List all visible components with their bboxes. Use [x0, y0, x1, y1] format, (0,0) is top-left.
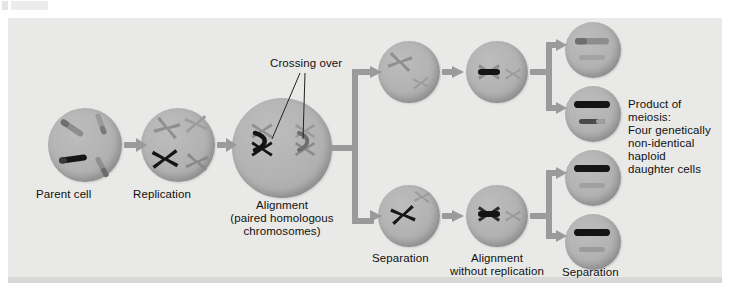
chromosomes-replication: [151, 115, 209, 171]
label-product-line4: non-identical: [628, 137, 695, 151]
chromosomes-alignment-wo-bottom: [478, 206, 521, 221]
label-parent-cell: Parent cell: [36, 188, 91, 202]
chromosomes-alignment-wo-top: [478, 64, 521, 79]
crossover-strand-left: [255, 133, 265, 150]
chromosomes-product-3: [574, 165, 610, 188]
label-alignment-wo-line1: Alignment: [452, 252, 542, 266]
label-product-line1: Product of: [628, 98, 681, 112]
label-replication: Replication: [133, 188, 191, 202]
label-product-line3: Four genetically: [628, 124, 711, 138]
label-product-line6: daughter cells: [628, 163, 701, 177]
chromosomes-separation-top: [387, 52, 430, 90]
label-alignment-wo-line2: without replication: [436, 265, 558, 279]
label-alignment-line2: (paired homologous: [212, 212, 352, 226]
label-alignment-line1: Alignment: [232, 199, 332, 213]
label-product-line5: haploid: [628, 150, 666, 164]
label-product-line2: meiosis:: [628, 111, 671, 125]
chromosomes-parent: [59, 113, 110, 178]
label-separation-top: Separation: [372, 252, 429, 266]
chromosomes-product-2: [574, 101, 610, 124]
chromosomes-alignment-tetrads: [251, 124, 315, 157]
chromosomes-product-4: [574, 229, 610, 252]
label-alignment-line3: chromosomes): [232, 225, 332, 239]
label-separation-bottom: Separation: [562, 266, 619, 280]
label-crossing-over: Crossing over: [270, 57, 342, 71]
chromosomes-product-1: [575, 38, 609, 60]
meiosis-figure: Parent cell Replication Alignment (paire…: [0, 0, 730, 299]
chromosomes-separation-bottom: [390, 191, 431, 225]
diagram-vectors: [0, 0, 730, 299]
